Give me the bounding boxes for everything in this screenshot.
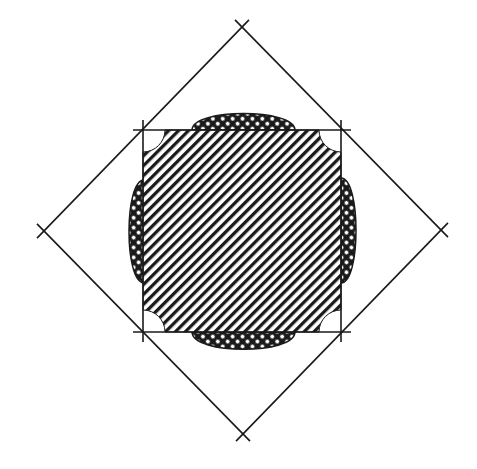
geometric-diagram [0,0,477,469]
lobe-right [341,178,356,283]
lobe-bottom [192,332,295,349]
lobe-top [192,114,295,131]
lobe-left [129,180,144,283]
square-fill [143,130,341,332]
hatched-square [133,120,351,342]
